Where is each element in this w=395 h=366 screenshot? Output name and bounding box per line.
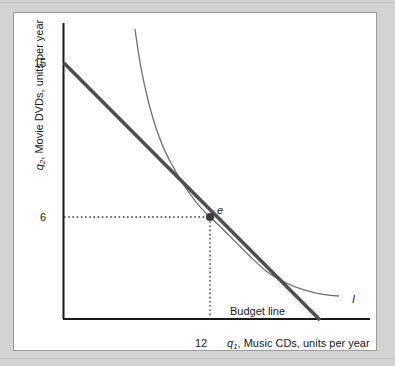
x-axis-title-text: , Music CDs, units per year: [238, 337, 370, 349]
x-axis-tick-12: 12: [195, 337, 207, 349]
chart-graphic: [14, 13, 378, 352]
indifference-curve-label: I: [352, 293, 355, 305]
figure-panel: 15 6 12 q2, Movie DVDs, units per year q…: [13, 12, 377, 351]
page-top-rule: [0, 2, 395, 3]
y-axis-title-var: q: [33, 164, 45, 170]
y-axis-title-text: , Movie DVDs, units per year: [33, 20, 45, 160]
y-axis-title-subscript: 2: [38, 160, 47, 164]
y-axis-title: q2, Movie DVDs, units per year: [33, 15, 47, 175]
x-axis-title: q1, Music CDs, units per year: [227, 337, 370, 351]
budget-line: [64, 63, 320, 320]
page-bottom-rule: [0, 358, 395, 359]
y-axis-tick-6: 6: [40, 211, 46, 223]
equilibrium-point-e: [206, 213, 214, 221]
plot-area: 15 6 12 q2, Movie DVDs, units per year q…: [14, 13, 378, 352]
equilibrium-point-label: e: [217, 204, 223, 216]
budget-line-label: Budget line: [230, 305, 285, 317]
